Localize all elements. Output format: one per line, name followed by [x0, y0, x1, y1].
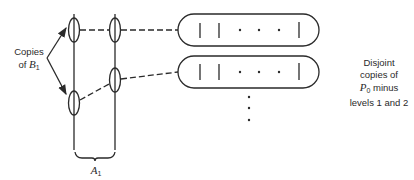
a1-label: A1	[86, 164, 106, 180]
dashed-link-bottom-left	[80, 84, 109, 100]
capsule-1	[178, 14, 319, 46]
arrow-to-top-copy	[47, 28, 66, 58]
a1-brace	[75, 152, 115, 161]
arrow-to-bottom-copy	[47, 58, 66, 94]
disjoint-copies-label: Disjoint copies of P0 minus levels 1 and…	[344, 57, 414, 109]
capsule-2	[178, 56, 319, 88]
copies-of-b1-label: Copies of B1	[11, 46, 47, 74]
dashed-link-middle-right	[121, 72, 178, 79]
ellipsis-dots	[239, 29, 280, 121]
